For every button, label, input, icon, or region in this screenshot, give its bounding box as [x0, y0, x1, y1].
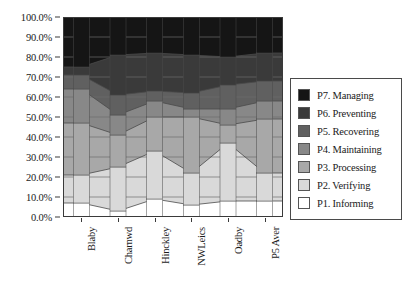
y-axis-tick-mark [55, 17, 60, 18]
x-axis-tick-mark [81, 218, 82, 222]
legend-label: P4. Maintaining [317, 144, 382, 155]
x-axis-tick-label: Blaby [86, 227, 97, 251]
legend-item[interactable]: P5. Recovering [298, 122, 395, 140]
y-axis-tick-mark [55, 197, 60, 198]
legend-item[interactable]: P6. Preventing [298, 104, 395, 122]
x-axis-tick-mark [228, 218, 229, 222]
y-axis-tick-label: 100.0% [21, 12, 52, 23]
x-axis-tick-label: Oadby [233, 227, 244, 254]
stacked-area-chart: 100.0%90.0%80.0%70.0%60.0%50.0%40.0%30.0… [0, 0, 414, 297]
x-axis-tick-mark [191, 218, 192, 222]
y-axis-tick-mark [55, 177, 60, 178]
legend-label: P2. Verifying [317, 180, 370, 191]
legend-item[interactable]: P7. Managing [298, 86, 395, 104]
legend-label: P5. Recovering [317, 126, 379, 137]
y-axis-tick-label: 50.0% [26, 112, 52, 123]
legend-item[interactable]: P4. Maintaining [298, 140, 395, 158]
legend-item[interactable]: P1. Informing [298, 194, 395, 212]
x-axis-tick-label: NWLeics [196, 227, 207, 266]
y-axis-tick-mark [55, 97, 60, 98]
legend-swatch-icon [298, 197, 310, 209]
x-axis-tick-mark [155, 218, 156, 222]
plot-frame [63, 17, 283, 217]
x-axis: BlabyCharnwdHinckleyNWLeicsOadbyP5 Aver [63, 218, 283, 297]
legend-swatch-icon [298, 89, 310, 101]
y-axis-tick-label: 30.0% [26, 152, 52, 163]
y-axis: 100.0%90.0%80.0%70.0%60.0%50.0%40.0%30.0… [0, 17, 60, 217]
y-axis-tick-mark [55, 37, 60, 38]
legend-label: P6. Preventing [317, 108, 376, 119]
y-axis-tick-label: 10.0% [26, 192, 52, 203]
y-axis-tick-mark [55, 217, 60, 218]
legend-label: P7. Managing [317, 90, 374, 101]
legend-item[interactable]: P3. Processing [298, 158, 395, 176]
x-axis-tick-label: Charnwd [123, 227, 134, 264]
legend-item[interactable]: P2. Verifying [298, 176, 395, 194]
y-axis-tick-label: 70.0% [26, 72, 52, 83]
legend-swatch-icon [298, 125, 310, 137]
y-axis-tick-label: 90.0% [26, 32, 52, 43]
legend-swatch-icon [298, 161, 310, 173]
chart-legend: P7. ManagingP6. PreventingP5. Recovering… [290, 78, 402, 220]
y-axis-tick-mark [55, 137, 60, 138]
y-axis-tick-label: 40.0% [26, 132, 52, 143]
y-axis-tick-label: 80.0% [26, 52, 52, 63]
legend-swatch-icon [298, 107, 310, 119]
plot-area [63, 17, 283, 217]
x-axis-tick-mark [118, 218, 119, 222]
legend-swatch-icon [298, 179, 310, 191]
y-axis-tick-mark [55, 117, 60, 118]
legend-swatch-icon [298, 143, 310, 155]
legend-label: P1. Informing [317, 198, 373, 209]
y-axis-tick-label: 0.0% [31, 212, 52, 223]
y-axis-tick-mark [55, 57, 60, 58]
y-axis-tick-label: 20.0% [26, 172, 52, 183]
y-axis-tick-mark [55, 77, 60, 78]
y-axis-tick-label: 60.0% [26, 92, 52, 103]
x-axis-tick-mark [265, 218, 266, 222]
x-axis-tick-label: P5 Aver [270, 227, 281, 259]
legend-label: P3. Processing [317, 162, 376, 173]
x-axis-tick-label: Hinckley [160, 227, 171, 264]
y-axis-tick-mark [55, 157, 60, 158]
